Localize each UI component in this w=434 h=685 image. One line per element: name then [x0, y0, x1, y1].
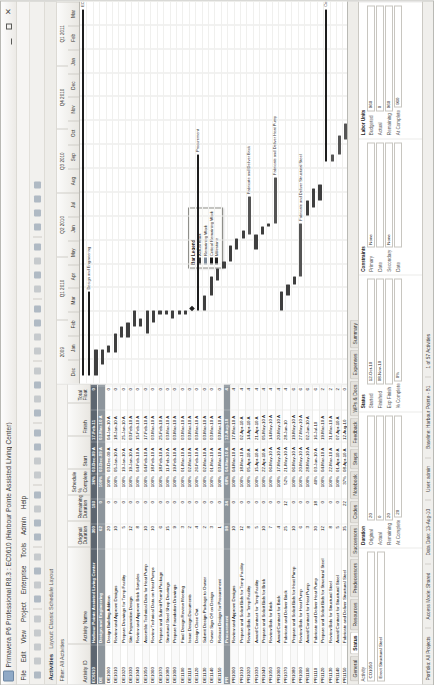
detail-tab-steps[interactable]: Steps	[350, 448, 358, 469]
group-sort-icon[interactable]	[31, 502, 44, 515]
print-icon[interactable]	[31, 626, 44, 639]
tab-activities[interactable]: Activities	[48, 653, 54, 680]
undo-icon[interactable]	[31, 550, 44, 563]
resource-usage-icon[interactable]	[31, 240, 44, 253]
detail-field-value[interactable]: 08-Nov-10	[376, 278, 384, 384]
gantt-bar[interactable]	[82, 9, 85, 376]
activity-network-icon[interactable]	[31, 268, 44, 281]
detail-activity-id-field[interactable]: CO1050	[367, 551, 375, 681]
gantt-bar[interactable]	[184, 310, 187, 314]
gantt-bar[interactable]	[235, 238, 238, 249]
gantt-bar[interactable]	[165, 310, 168, 314]
open-icon[interactable]	[31, 654, 44, 667]
gantt-bar[interactable]	[203, 295, 206, 310]
gantt-canvas[interactable]: Bar Legend Actual WorkRemaining WorkCrit…	[80, 1, 347, 383]
columns-icon[interactable]	[31, 530, 44, 543]
detail-field-value[interactable]: 960	[367, 5, 375, 111]
menu-item-file[interactable]: File	[20, 669, 27, 681]
table-row[interactable]: DE1010Review and Approve Designs100100%0…	[113, 384, 120, 684]
gantt-bar[interactable]	[216, 268, 219, 279]
table-row[interactable]: DE1070Prepare and Submit Permit Package6…	[158, 384, 165, 684]
table-row[interactable]: PR1090Review Bids for Heat Pump60100%20-…	[298, 384, 305, 684]
detail-tab-general[interactable]: General	[350, 655, 358, 681]
table-row[interactable]: DE1080Structural Steel Shop Drawings1501…	[165, 384, 172, 684]
gantt-bar[interactable]	[222, 261, 225, 269]
detail-field-value[interactable]: 960	[385, 5, 393, 111]
table-row[interactable]: PR1060Award Contract for Brick40100%17-M…	[276, 384, 283, 684]
column-header[interactable]: Activity Name	[68, 546, 90, 643]
gantt-bar[interactable]	[171, 310, 174, 318]
zoom-in-icon[interactable]	[31, 468, 44, 481]
gantt-bar[interactable]	[267, 223, 270, 227]
detail-tab-summary[interactable]: Summary	[350, 319, 358, 348]
maximize-icon[interactable]	[5, 22, 13, 30]
gantt-bar[interactable]	[229, 246, 232, 261]
top-layout-icon[interactable]	[31, 206, 44, 219]
progress-spotlight-icon[interactable]	[31, 302, 44, 315]
zoom-out-icon[interactable]	[31, 454, 44, 467]
paste-icon[interactable]	[31, 564, 44, 577]
table-row[interactable]: DE1050Assemble Technical Data for Heat P…	[143, 384, 150, 684]
detail-field-value[interactable]: 0%	[394, 278, 402, 381]
table-body[interactable]: EC0610Harbour Pointe Assisted Living Cen…	[91, 384, 347, 684]
gantt-bar[interactable]	[178, 310, 181, 314]
timescale-icon[interactable]	[31, 440, 44, 453]
detail-field-value[interactable]: 960	[394, 5, 402, 107]
gantt-bar[interactable]	[242, 230, 245, 238]
gantt-bar[interactable]	[139, 318, 142, 326]
layout-icon[interactable]	[31, 220, 44, 233]
gantt-bar[interactable]	[280, 291, 283, 310]
close-icon[interactable]: ✕	[5, 7, 13, 15]
minimize-icon[interactable]	[5, 37, 13, 45]
gantt-bar[interactable]	[299, 223, 302, 276]
gantt-bar[interactable]	[306, 200, 309, 215]
gantt-bar[interactable]	[120, 326, 123, 337]
gantt-bar[interactable]	[88, 291, 91, 375]
gantt-bar[interactable]	[210, 276, 213, 295]
gantt-bar[interactable]	[344, 123, 347, 138]
progress-line-icon[interactable]	[31, 330, 44, 343]
column-header[interactable]: Original Duration	[68, 520, 90, 546]
detail-tab-predecessors[interactable]: Predecessors	[350, 558, 358, 597]
find-icon[interactable]	[31, 488, 44, 501]
menu-item-admin[interactable]: Admin	[20, 516, 27, 536]
table-row[interactable]: DE1060Review Technical Data on Heat Pump…	[150, 384, 157, 684]
gantt-bar[interactable]	[293, 276, 296, 284]
gantt-bar[interactable]	[318, 184, 321, 199]
gantt-bar[interactable]	[248, 196, 251, 234]
column-header[interactable]: Finish	[68, 402, 90, 435]
gantt-bar[interactable]	[152, 310, 155, 321]
column-header[interactable]: Schedule % Complete	[68, 468, 90, 494]
detail-field-value[interactable]	[394, 142, 402, 248]
save-icon[interactable]	[31, 640, 44, 653]
gantt-bar[interactable]	[107, 345, 110, 353]
table-row[interactable]: PR1070Fabricate and Deliver Brick251252%…	[283, 384, 290, 684]
table-row[interactable]: DE1150Release Design for Procurement1010…	[217, 384, 224, 684]
table-row[interactable]: PR1040Prepare and Solicit Bids for Brick…	[261, 384, 268, 684]
table-row[interactable]: PR1080Prepare and Solicit Bids for Heat …	[291, 384, 298, 684]
table-row[interactable]: PR1000Review and Approve Designs100100%0…	[231, 384, 238, 684]
copy-icon[interactable]	[31, 578, 44, 591]
table-row[interactable]: DE1120Design Close Out40100%26-Feb-10 A0…	[194, 384, 201, 684]
menu-item-tools[interactable]: Tools	[20, 541, 27, 558]
table-row[interactable]: DE1040Review and Approve Brick Samples80…	[135, 384, 142, 684]
detail-field-value[interactable]	[376, 142, 384, 248]
table-group-row[interactable]: PRProcurement983468%04-Mar-10 A12-Aug-10…	[224, 384, 231, 684]
gantt-bar[interactable]	[158, 310, 161, 314]
detail-activity-name-field[interactable]: Erect Structural Steel	[377, 551, 385, 681]
table-row[interactable]: PR1110Fabricate and Deliver Heat Pump301…	[313, 384, 320, 684]
gantt-bar[interactable]	[133, 310, 136, 325]
gantt-bar[interactable]	[261, 226, 264, 234]
gantt-bar[interactable]	[312, 188, 315, 207]
detail-field-value[interactable]: 20	[394, 415, 402, 517]
detail-tab-codes[interactable]: Codes	[350, 500, 358, 522]
new-icon[interactable]	[31, 668, 44, 681]
table-row[interactable]: DE1000Design Building Addition200100%03-…	[106, 384, 113, 684]
table-group-row[interactable]: EC0610Harbour Pointe Assisted Living Cen…	[91, 384, 98, 684]
store-period-icon[interactable]	[31, 364, 44, 377]
table-row[interactable]: DE1130Submit Design Package to Owner2010…	[202, 384, 209, 684]
detail-tab-resources[interactable]: Resources	[350, 598, 358, 630]
detail-tab-successors[interactable]: Successors	[350, 524, 358, 558]
menu-item-enterprise[interactable]: Enterprise	[20, 564, 27, 595]
column-header[interactable]: Remaining Duration	[68, 494, 90, 520]
